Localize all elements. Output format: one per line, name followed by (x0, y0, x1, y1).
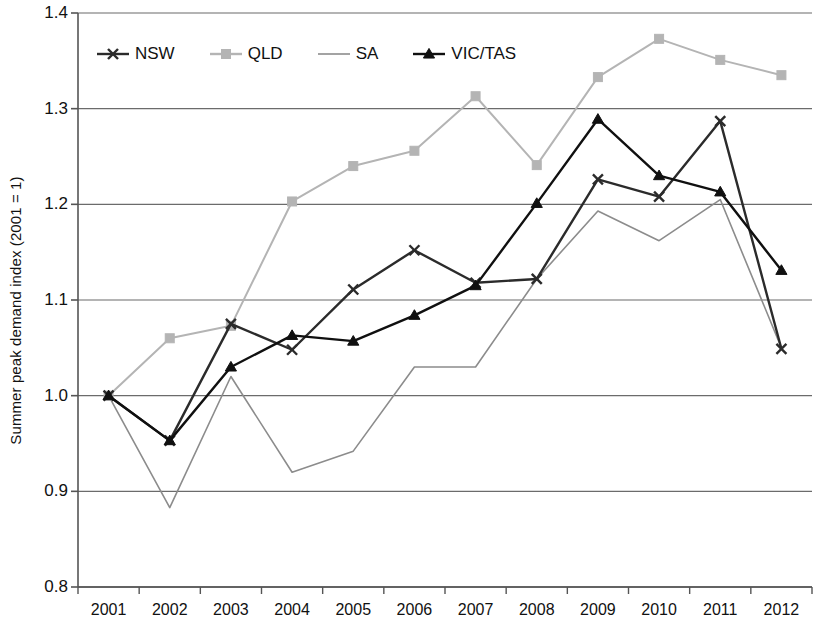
legend-swatch-qld (209, 45, 243, 63)
data-point-marker-square (593, 73, 602, 82)
legend-label: VIC/TAS (449, 44, 516, 64)
legend-label: NSW (133, 44, 175, 64)
data-point-marker-x (348, 284, 358, 294)
chart-legend: NSWQLDSAVIC/TAS (96, 44, 516, 64)
legend-item-nsw[interactable]: NSW (96, 44, 175, 64)
data-point-marker-square (471, 92, 480, 101)
series-line (109, 119, 782, 440)
data-point-marker-square (288, 197, 297, 206)
legend-swatch-nsw (96, 45, 130, 63)
legend-swatch-vic-tas (412, 45, 446, 63)
data-series-layer (103, 34, 787, 507)
data-point-marker-square (165, 334, 174, 343)
legend-swatch-sa (317, 45, 351, 63)
plot-area (0, 0, 825, 621)
series-line (109, 39, 782, 396)
series-vic-tas (103, 114, 787, 445)
legend-label: QLD (246, 44, 283, 64)
legend-label: SA (354, 44, 379, 64)
legend-item-sa[interactable]: SA (317, 44, 379, 64)
legend-item-vic-tas[interactable]: VIC/TAS (412, 44, 516, 64)
series-line (109, 200, 782, 508)
data-point-marker-x (409, 245, 419, 255)
data-point-marker-square (716, 55, 725, 64)
data-point-marker-square (410, 146, 419, 155)
data-point-marker-square (655, 34, 664, 43)
legend-item-qld[interactable]: QLD (209, 44, 283, 64)
data-point-marker-x (287, 345, 297, 355)
data-point-marker-triangle (592, 114, 603, 124)
data-point-marker-square (349, 162, 358, 171)
series-sa (109, 200, 782, 508)
data-point-marker-square (221, 50, 230, 59)
line-chart: Summer peak demand index (2001 = 1) 0.80… (0, 0, 825, 621)
series-qld (104, 34, 786, 400)
data-point-marker-square (532, 161, 541, 170)
data-point-marker-square (777, 71, 786, 80)
